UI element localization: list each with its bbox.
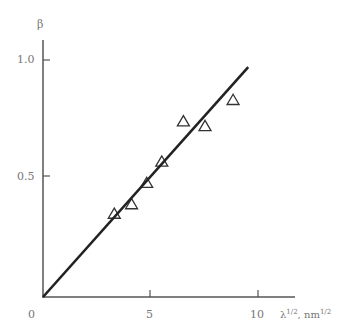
x-tick-label-10: 10 [250, 308, 264, 321]
data-point-triangle [227, 94, 239, 104]
x-tick-label-5: 5 [146, 308, 153, 321]
chart: β 1.0 0.5 0 5 10 λ1/2, nm1/2 [0, 0, 349, 334]
y-tick-label-1.0: 1.0 [17, 53, 35, 66]
y-axis-label: β [37, 18, 43, 31]
x-tick-label-0: 0 [28, 308, 35, 321]
y-tick-label-0.5: 0.5 [17, 170, 35, 183]
data-point-triangle [177, 116, 189, 126]
fit-line [43, 67, 248, 297]
plot-area [43, 67, 248, 297]
x-axis-label: λ1/2, nm1/2 [280, 308, 331, 320]
